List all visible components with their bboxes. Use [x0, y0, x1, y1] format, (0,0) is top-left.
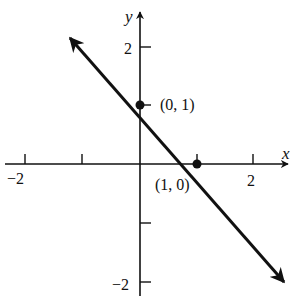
point-label-y-intercept: (0, 1) — [160, 96, 195, 114]
x-axis-label: x — [281, 144, 290, 163]
y-tick-label-neg2: −2 — [112, 276, 129, 293]
x-tick-label-neg2: −2 — [7, 170, 24, 187]
y-tick-label-2: 2 — [124, 40, 132, 57]
point-x-intercept — [193, 160, 202, 169]
x-ticks — [25, 154, 253, 164]
point-y-intercept — [136, 101, 145, 110]
point-label-x-intercept: (1, 0) — [155, 176, 190, 194]
x-tick-label-2: 2 — [247, 172, 255, 189]
y-axis-label: y — [123, 7, 133, 26]
line-graph: y x 2 −2 −2 2 (0, 1) (1, 0) — [0, 0, 294, 298]
function-line — [70, 38, 284, 282]
